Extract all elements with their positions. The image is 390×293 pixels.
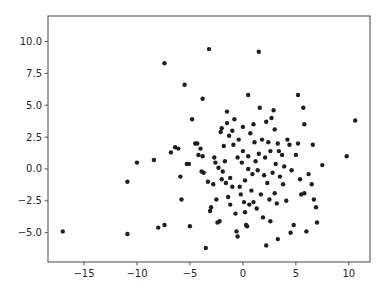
data-point [232,117,236,121]
data-point [162,223,166,227]
data-point [252,140,256,144]
data-point [312,197,316,201]
data-point [274,162,278,166]
data-point [345,154,349,158]
y-tick-label: 7.5 [26,68,42,79]
data-point [255,206,259,210]
data-point [253,159,257,163]
data-point [302,191,306,195]
data-point [226,195,230,199]
data-point [267,197,271,201]
data-point [302,122,306,126]
data-point [275,201,279,205]
data-point [306,172,310,176]
data-point [225,109,229,113]
data-point [296,141,300,145]
data-point [260,137,264,141]
data-point [242,200,246,204]
y-axis-ticks: −5.0−2.50.02.55.07.510.0 [18,36,48,238]
data-point [256,168,260,172]
data-point [156,225,160,229]
data-point [188,224,192,228]
data-point [284,199,288,203]
data-point [292,223,296,227]
data-point [135,160,139,164]
plot-background [48,16,370,262]
data-point [304,229,308,233]
data-point [225,121,229,125]
data-point [294,153,298,157]
data-point [241,125,245,129]
data-point [214,197,218,201]
data-point [187,162,191,166]
y-tick-label: 10.0 [20,36,42,47]
y-tick-label: −2.5 [18,195,42,206]
data-point [276,141,280,145]
data-point [320,163,324,167]
data-point [353,118,357,122]
x-tick-label: 5 [293,268,299,279]
data-point [282,164,286,168]
data-point [246,154,250,158]
data-point [257,50,261,54]
data-point [162,61,166,65]
data-point [223,159,227,163]
data-point [314,205,318,209]
data-point [285,137,289,141]
data-point [211,182,215,186]
data-point [198,146,202,150]
data-point [195,141,199,145]
data-point [220,126,224,130]
data-point [231,143,235,147]
y-tick-label: 2.5 [26,132,42,143]
data-point [219,130,223,134]
data-point [301,106,305,110]
data-point [276,237,280,241]
data-point [263,155,267,159]
data-point [261,215,265,219]
data-point [216,166,220,170]
data-point [257,152,261,156]
data-point [125,180,129,184]
data-point [296,93,300,97]
data-point [248,131,252,135]
x-tick-label: −15 [73,268,94,279]
data-point [234,229,238,233]
data-point [200,97,204,101]
data-point [209,205,213,209]
data-point [289,168,293,172]
data-point [241,149,245,153]
data-point [169,150,173,154]
data-point [273,127,277,131]
data-point [250,172,254,176]
y-tick-label: 5.0 [26,100,42,111]
data-point [268,219,272,223]
data-point [271,108,275,112]
data-point [288,231,292,235]
data-point [224,181,228,185]
data-point [213,160,217,164]
x-tick-label: 0 [240,268,246,279]
y-tick-label: 0.0 [26,163,42,174]
data-point [152,158,156,162]
data-point [61,229,65,233]
data-point [270,171,274,175]
x-tick-label: 10 [342,268,355,279]
data-point [207,47,211,51]
data-point [206,180,210,184]
data-point [265,181,269,185]
data-point [245,224,249,228]
data-point [221,169,225,173]
data-point [196,153,200,157]
data-point [243,210,247,214]
data-point [247,202,251,206]
data-point [262,173,266,177]
data-point [238,185,242,189]
data-point [202,171,206,175]
data-point [310,182,314,186]
data-point [239,192,243,196]
x-axis-ticks: −15−10−50510 [73,262,355,279]
data-point [280,153,284,157]
data-point [176,146,180,150]
data-point [311,143,315,147]
